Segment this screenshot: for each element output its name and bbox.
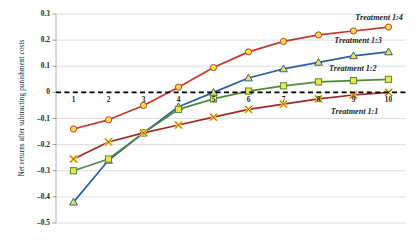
series-label-2: Treatment 1:3 xyxy=(334,36,382,45)
marker-circle xyxy=(105,117,111,123)
x-tick-label: 1 xyxy=(66,95,82,104)
y-tick-label: 0.2 xyxy=(24,35,50,44)
marker-square xyxy=(280,83,286,89)
marker-circle xyxy=(70,126,76,132)
x-tick-label: 8 xyxy=(311,95,327,104)
chart-container: Net returns after subtracting punishment… xyxy=(0,0,416,248)
marker-square xyxy=(175,106,181,112)
y-tick-label: –0.2 xyxy=(24,140,50,149)
y-tick-label: –0.4 xyxy=(24,192,50,201)
marker-circle xyxy=(210,64,216,70)
x-tick-label: 2 xyxy=(101,95,117,104)
x-tick-label: 9 xyxy=(346,95,362,104)
y-tick-label: 0 xyxy=(24,87,50,96)
marker-circle xyxy=(350,28,356,34)
y-tick-label: 0.1 xyxy=(24,61,50,70)
marker-square xyxy=(350,78,356,84)
marker-circle xyxy=(385,24,391,30)
y-tick-label: 0.3 xyxy=(24,9,50,18)
marker-circle xyxy=(175,84,181,90)
y-tick-label: –0.3 xyxy=(24,166,50,175)
series-label-4: Treatment 1:1 xyxy=(331,107,379,116)
marker-square xyxy=(105,156,111,162)
y-tick-marks xyxy=(53,14,57,223)
x-tick-label: 10 xyxy=(381,95,397,104)
x-tick-label: 4 xyxy=(171,95,187,104)
marker-circle xyxy=(245,49,251,55)
marker-square xyxy=(70,168,76,174)
marker-square xyxy=(315,79,321,85)
x-tick-label: 7 xyxy=(276,95,292,104)
series-label-1: Treatment 1:4 xyxy=(355,13,403,22)
marker-circle xyxy=(280,38,286,44)
y-tick-label: –0.5 xyxy=(24,218,50,227)
series-label-3: Treatment 1:2 xyxy=(329,64,377,73)
x-tick-label: 6 xyxy=(241,95,257,104)
x-tick-label: 3 xyxy=(136,95,152,104)
marker-circle xyxy=(315,32,321,38)
y-tick-label: –0.1 xyxy=(24,114,50,123)
x-tick-label: 5 xyxy=(206,95,222,104)
marker-square xyxy=(385,76,391,82)
